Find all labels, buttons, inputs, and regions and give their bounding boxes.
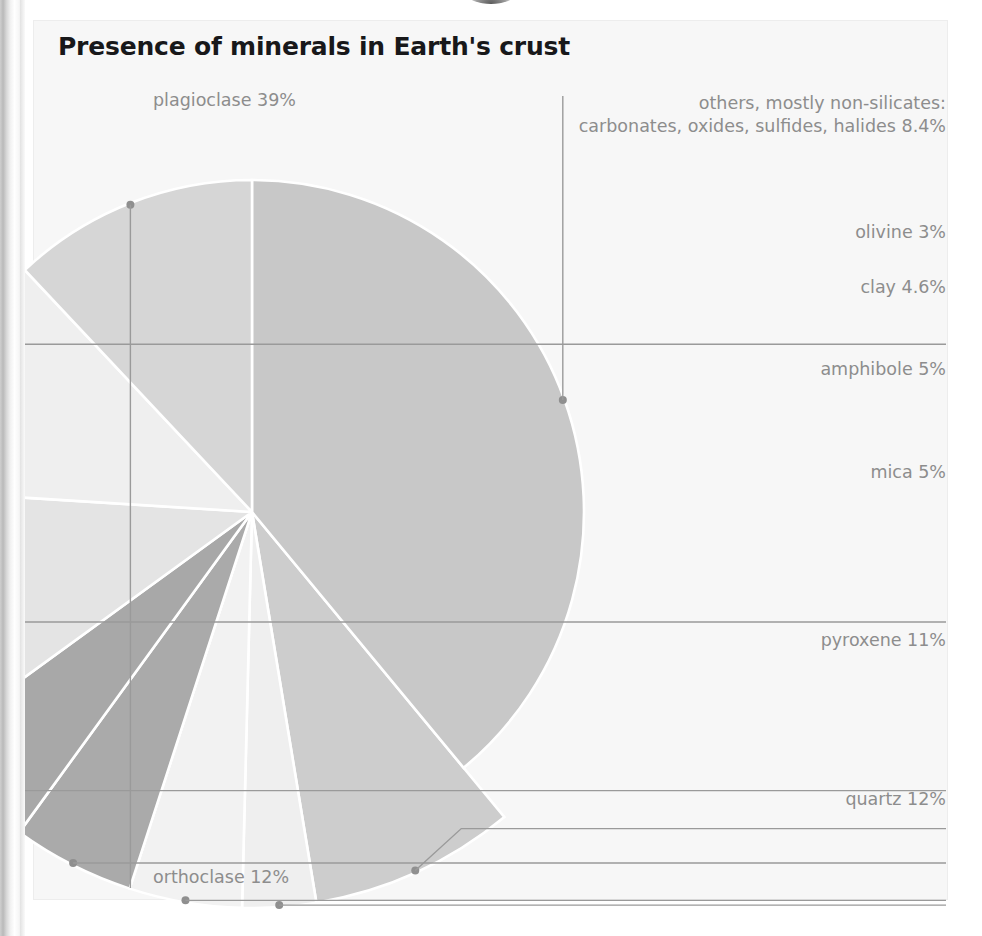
- page-top-marker-dot: [468, 0, 514, 4]
- book-page-edge: [20, 0, 25, 936]
- callout-label-amphibole: amphibole 5%: [820, 359, 946, 379]
- page-title: Presence of minerals in Earth's crust: [58, 32, 570, 61]
- callout-label-olivine: olivine 3%: [855, 222, 946, 242]
- callout-label-others-line2: carbonates, oxides, sulfides, halides 8.…: [579, 115, 946, 138]
- callout-label-orthoclase: orthoclase 12%: [153, 867, 289, 887]
- callout-label-others: others, mostly non-silicates: carbonates…: [579, 92, 946, 138]
- book-gutter-shadow: [0, 0, 22, 936]
- callout-label-others-line1: others, mostly non-silicates:: [579, 92, 946, 115]
- callout-label-quartz: quartz 12%: [845, 789, 946, 809]
- callout-label-pyroxene: pyroxene 11%: [821, 630, 946, 650]
- callout-label-plagioclase: plagioclase 39%: [153, 90, 296, 110]
- figure-page: Presence of minerals in Earth's crust pl…: [0, 0, 982, 936]
- callout-label-mica: mica 5%: [870, 462, 946, 482]
- callout-label-clay: clay 4.6%: [860, 277, 946, 297]
- chart-panel: [33, 20, 948, 900]
